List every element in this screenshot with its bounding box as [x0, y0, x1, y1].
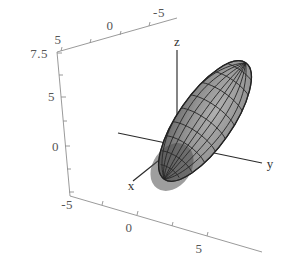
frame-bottom-tick-label-1: 5 — [196, 241, 203, 256]
ellipsoid-surface — [142, 47, 268, 199]
frame-left-tick-label-0: 7.5 — [30, 46, 48, 61]
frame-left-tick-label-2: 0 — [52, 139, 59, 154]
frame-left-tick-label-3: -5 — [61, 197, 73, 212]
frame-left-tick-label-1: 5 — [48, 89, 55, 104]
frame-top-tick-label-2: -5 — [153, 5, 165, 20]
z-axis-label: z — [174, 34, 180, 49]
plot-canvas: 5 0 -5 7.5 5 0 -5 0 5 — [0, 0, 288, 270]
frame-bottom-ticks — [102, 201, 208, 236]
y-axis-label: y — [267, 156, 274, 171]
frame-top-tick-label-0: 5 — [55, 32, 62, 47]
frame-bottom-tick-label-0: 0 — [126, 220, 133, 235]
frame-edge-left — [57, 52, 70, 196]
frame-left-ticks — [57, 53, 74, 192]
plot-svg: 5 0 -5 7.5 5 0 -5 0 5 — [0, 0, 288, 270]
frame-top-tick-label-1: 0 — [107, 18, 114, 33]
frame-edge-top — [57, 18, 177, 52]
frame-edge-bottom — [70, 196, 262, 252]
x-axis-label: x — [128, 178, 135, 193]
